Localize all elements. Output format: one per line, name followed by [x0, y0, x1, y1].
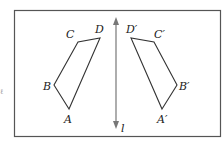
diagram-frame [15, 11, 221, 137]
reflection-diagram: l A B C D A′ B′ C′ D′ ℓ [0, 0, 223, 143]
vertex-label-d-prime: D′ [125, 23, 138, 36]
vertex-label-b: B [42, 80, 51, 93]
vertex-label-c: C [66, 28, 75, 41]
vertex-label-b-prime: B′ [178, 80, 190, 93]
stray-mark: ℓ [0, 88, 3, 96]
quadrilateral-a-prime-b-prime-c-prime-d-prime [131, 38, 177, 109]
vertex-label-c-prime: C′ [154, 28, 165, 41]
reflection-line [113, 17, 119, 129]
arrow-up-icon [113, 17, 119, 25]
arrow-down-icon [113, 121, 119, 129]
vertex-label-a: A [63, 113, 72, 126]
line-label: l [121, 122, 125, 135]
vertex-label-d: D [94, 23, 104, 36]
quadrilateral-abcd [54, 38, 100, 109]
vertex-label-a-prime: A′ [156, 113, 168, 126]
